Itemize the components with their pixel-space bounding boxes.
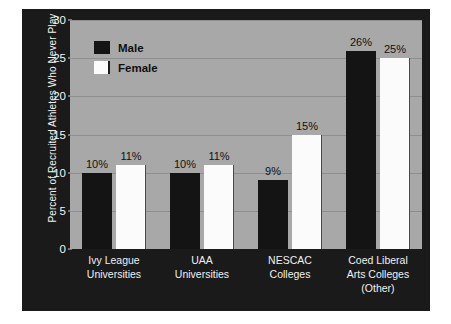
bar-male-0 — [82, 173, 112, 249]
x-axis-label-line: Arts Colleges — [334, 267, 422, 281]
white-square-swatch-icon — [94, 61, 110, 74]
y-axis-ticks: 051015202530 — [36, 9, 66, 311]
x-axis-label-line: Ivy League — [70, 253, 158, 267]
chart-frame: Percent of Recruited Athletes Who Never … — [22, 9, 430, 311]
bar-female-0 — [116, 165, 146, 249]
bar-value-label: 11% — [108, 150, 154, 162]
bar-value-label: 15% — [284, 120, 330, 132]
y-axis-tick-label: 20 — [36, 90, 66, 102]
legend-item-female: Female — [94, 59, 158, 76]
bar-male-1 — [170, 173, 200, 249]
gridline — [70, 20, 422, 21]
bar-male-2 — [258, 180, 288, 249]
x-axis-label-line: (Other) — [334, 281, 422, 295]
bar-value-label: 11% — [196, 150, 242, 162]
bar-value-label: 9% — [250, 165, 296, 177]
legend-label-female: Female — [118, 62, 158, 74]
bar-value-label: 25% — [372, 43, 418, 55]
y-axis-tick-label: 10 — [36, 167, 66, 179]
chart-legend: Male Female — [94, 39, 158, 79]
x-axis-label-2: NESCACColleges — [246, 253, 334, 281]
x-axis-label-line: NESCAC — [246, 253, 334, 267]
legend-item-male: Male — [94, 39, 158, 56]
y-axis-tick-label: 5 — [36, 205, 66, 217]
x-axis-label-line: Colleges — [246, 267, 334, 281]
chart-figure: Percent of Recruited Athletes Who Never … — [0, 0, 451, 324]
bar-female-1 — [204, 165, 234, 249]
x-axis-label-3: Coed LiberalArts Colleges(Other) — [334, 253, 422, 295]
black-square-swatch-icon — [94, 41, 110, 54]
x-axis-label-line: Coed Liberal — [334, 253, 422, 267]
x-axis-label-1: UAAUniversities — [158, 253, 246, 281]
legend-label-male: Male — [118, 42, 144, 54]
bar-female-2 — [292, 135, 322, 250]
x-axis-label-line: Universities — [70, 267, 158, 281]
x-axis-label-line: UAA — [158, 253, 246, 267]
y-axis-tick-label: 15 — [36, 129, 66, 141]
y-axis-tick-label: 25 — [36, 52, 66, 64]
y-axis-tick-label: 0 — [36, 243, 66, 255]
bar-male-3 — [346, 51, 376, 249]
y-axis-tick-label: 30 — [36, 14, 66, 26]
bar-female-3 — [380, 58, 410, 249]
x-axis-category-labels: Ivy LeagueUniversitiesUAAUniversitiesNES… — [70, 253, 422, 309]
x-axis-label-0: Ivy LeagueUniversities — [70, 253, 158, 281]
x-axis-label-line: Universities — [158, 267, 246, 281]
